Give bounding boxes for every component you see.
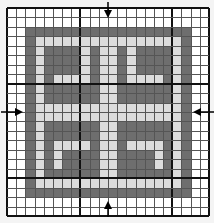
grid-bold-line — [7, 177, 209, 179]
grid-line — [7, 169, 209, 170]
grid-line — [7, 36, 209, 37]
grid-line — [7, 55, 209, 56]
right-center-arrow-icon — [193, 108, 214, 116]
stitch-chart-grid — [7, 8, 209, 216]
grid-line — [7, 103, 209, 104]
grid-line — [7, 131, 209, 132]
grid-line — [7, 150, 209, 151]
grid-line — [7, 112, 209, 113]
grid-cell — [181, 140, 191, 150]
left-center-arrow-icon — [1, 108, 23, 116]
grid-line — [7, 27, 209, 28]
grid-line — [7, 140, 209, 141]
grid-line — [7, 93, 209, 94]
top-center-arrow-icon — [104, 2, 112, 18]
grid-cell — [181, 159, 191, 169]
grid-bold-line — [7, 83, 209, 85]
grid-line — [7, 197, 209, 198]
bottom-center-arrow-icon — [104, 201, 112, 217]
grid-line — [7, 46, 209, 47]
grid-cell — [181, 103, 191, 113]
grid-cell — [181, 178, 191, 188]
grid-line — [7, 159, 209, 160]
grid-line — [7, 188, 209, 189]
grid-cell — [181, 93, 191, 103]
grid-line — [7, 121, 209, 122]
grid-cell — [181, 55, 191, 65]
grid-line — [7, 65, 209, 66]
grid-line — [7, 74, 209, 75]
grid-cell — [181, 121, 191, 131]
grid-cell — [181, 36, 191, 46]
